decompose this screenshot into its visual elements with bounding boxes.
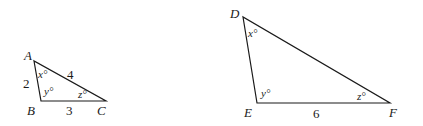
side-ac-length: 4 (67, 67, 74, 82)
vertex-a-label: A (23, 48, 32, 63)
angle-f-label: z° (356, 90, 366, 102)
similar-triangles-diagram: A B C 2 4 3 x° y° z° D E F 6 x° y° z° (0, 0, 423, 126)
vertex-d-label: D (229, 6, 240, 21)
vertex-b-label: B (27, 103, 35, 118)
side-ef-length: 6 (313, 106, 320, 121)
vertex-c-label: C (97, 103, 106, 118)
angle-d-label: x° (247, 27, 258, 39)
vertex-e-label: E (243, 105, 252, 120)
triangle-def: D E F 6 x° y° z° (229, 6, 398, 121)
side-ab-length: 2 (23, 76, 30, 91)
triangle-abc: A B C 2 4 3 x° y° z° (23, 48, 106, 118)
vertex-f-label: F (388, 105, 398, 120)
angle-e-label: y° (260, 87, 271, 99)
side-bc-length: 3 (66, 103, 73, 118)
angle-b-label: y° (43, 85, 54, 97)
angle-c-label: z° (77, 88, 87, 100)
angle-a-label: x° (37, 68, 48, 80)
